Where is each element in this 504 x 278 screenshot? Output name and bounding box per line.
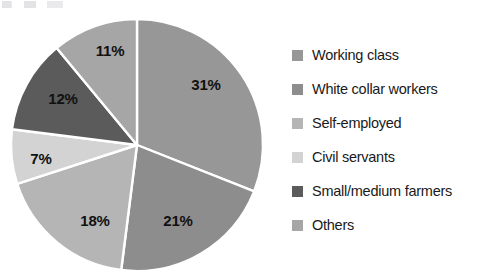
legend-item-label: Others xyxy=(312,217,354,233)
legend-swatch-icon xyxy=(292,50,303,61)
pie-slice-data-label: 7% xyxy=(30,150,51,167)
legend-swatch-icon xyxy=(292,118,303,129)
legend-item-label: Civil servants xyxy=(312,149,395,165)
legend-item[interactable]: Working class xyxy=(290,38,504,72)
pie-chart-plot-area: 31%21%18%7%12%11% xyxy=(0,0,290,278)
pie-chart-figure: 31%21%18%7%12%11% Working classWhite col… xyxy=(0,0,504,278)
legend-item-label: Small/medium farmers xyxy=(312,183,452,199)
legend-swatch-icon xyxy=(292,152,303,163)
legend-swatch-icon xyxy=(292,84,303,95)
legend-item-label: Working class xyxy=(312,47,399,63)
legend-item[interactable]: White collar workers xyxy=(290,72,504,106)
legend-item[interactable]: Civil servants xyxy=(290,140,504,174)
legend-item-label: Self-employed xyxy=(312,115,401,131)
chart-legend: Working classWhite collar workersSelf-em… xyxy=(290,38,504,242)
pie-slice-data-label: 18% xyxy=(80,212,109,229)
pie-svg xyxy=(0,0,290,278)
legend-item[interactable]: Small/medium farmers xyxy=(290,174,504,208)
pie-slice-data-label: 31% xyxy=(191,76,220,93)
legend-item[interactable]: Self-employed xyxy=(290,106,504,140)
legend-item-label: White collar workers xyxy=(312,81,438,97)
pie-slice-group xyxy=(11,19,263,271)
legend-swatch-icon xyxy=(292,220,303,231)
pie-slice-data-label: 12% xyxy=(48,90,77,107)
pie-slice-data-label: 11% xyxy=(96,42,125,59)
legend-item[interactable]: Others xyxy=(290,208,504,242)
legend-swatch-icon xyxy=(292,186,303,197)
pie-slice-data-label: 21% xyxy=(163,212,192,229)
